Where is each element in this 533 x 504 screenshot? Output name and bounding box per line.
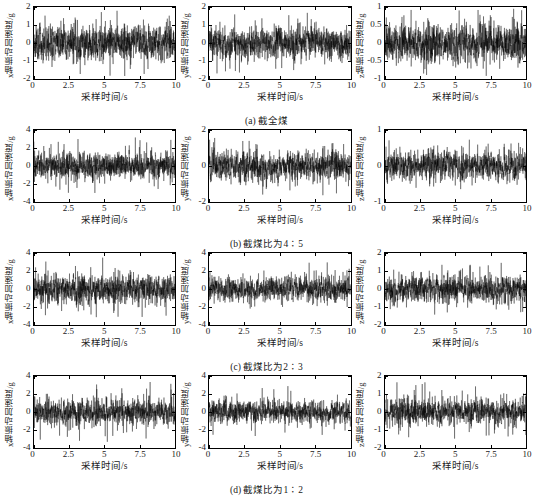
x-axis-label: 采样时间/s — [384, 93, 528, 103]
x-tick-label: 10 — [172, 81, 181, 90]
x-tick-label: 10 — [347, 327, 356, 336]
subplot-z-axis-row-2: z轴振动加速度/g10-102.557.510采样时间/s — [357, 127, 527, 227]
subplot-row-2: x轴振动加速度/g420-2-402.557.510采样时间/sy轴振动加速度/… — [2, 127, 531, 250]
x-tick-labels: 02.557.510 — [384, 449, 528, 461]
subplot-caption: (a) 截全煤 — [2, 117, 531, 127]
x-tick-label: 5 — [278, 204, 283, 213]
y-tick-label: 1 — [377, 125, 382, 134]
y-tick-label: 1 — [202, 20, 207, 29]
x-tick-label: 0 — [381, 204, 386, 213]
y-tick-label: 1 — [377, 389, 382, 398]
y-tick-label: 0 — [377, 161, 382, 170]
plot-column: 02.557.510采样时间/s — [208, 4, 352, 103]
x-tick-label: 10 — [347, 204, 356, 213]
subplot-x-axis-row-3: x轴振动加速度/g420-2-402.557.510采样时间/s — [6, 250, 176, 350]
y-tick-label: 0 — [202, 407, 207, 416]
vibration-figure: x轴振动加速度/g210-1-202.557.510采样时间/sy轴振动加速度/… — [0, 0, 533, 504]
plot-area — [208, 6, 352, 80]
plot-area — [384, 252, 528, 326]
x-tick-label: 5 — [102, 450, 107, 459]
plot-area — [208, 129, 352, 203]
x-axis-label: 采样时间/s — [33, 216, 177, 226]
x-tick-labels: 02.557.510 — [33, 449, 177, 461]
y-tick-label: 1 — [377, 2, 382, 11]
plot-area — [384, 375, 528, 449]
y-tick-labels: 420-2-4 — [16, 375, 33, 447]
y-tick-label: 2 — [202, 389, 207, 398]
plot-area — [33, 6, 177, 80]
x-axis-label: 采样时间/s — [208, 339, 352, 349]
y-tick-label: 0 — [377, 284, 382, 293]
y-axis-label: z轴振动加速度/g — [357, 125, 366, 213]
x-tick-label: 10 — [523, 81, 532, 90]
x-tick-label: 2.5 — [238, 450, 249, 459]
x-tick-label: 2.5 — [63, 450, 74, 459]
y-axis-label: y轴振动加速度/g — [182, 2, 191, 90]
x-tick-label: 2.5 — [414, 327, 425, 336]
x-tick-label: 5 — [278, 81, 283, 90]
plot-column: 02.557.510采样时间/s — [208, 127, 352, 226]
x-tick-label: 7.5 — [135, 81, 146, 90]
y-tick-label: 1 — [377, 266, 382, 275]
subplot-y-axis-row-4: y轴振动加速度/g420-2-402.557.510采样时间/s — [182, 373, 352, 473]
x-axis-label: 采样时间/s — [384, 339, 528, 349]
plot-area — [208, 252, 352, 326]
y-tick-labels: 10.50-0.5-1 — [367, 6, 384, 78]
y-axis-label: x轴振动加速度/g — [6, 2, 15, 90]
x-tick-label: 2.5 — [414, 450, 425, 459]
y-tick-labels: 420-2-4 — [191, 375, 208, 447]
x-axis-label: 采样时间/s — [33, 339, 177, 349]
x-tick-label: 7.5 — [135, 450, 146, 459]
x-axis-label: 采样时间/s — [384, 462, 528, 472]
y-axis-label: z轴振动加速度/g — [357, 2, 366, 90]
y-tick-label: 0 — [377, 407, 382, 416]
y-tick-label: 2 — [26, 2, 31, 11]
x-tick-label: 0 — [206, 81, 211, 90]
subplot-row-3: x轴振动加速度/g420-2-402.557.510采样时间/sy轴振动加速度/… — [2, 250, 531, 373]
x-axis-label: 采样时间/s — [33, 462, 177, 472]
x-tick-labels: 02.557.510 — [384, 80, 528, 92]
x-axis-label: 采样时间/s — [208, 462, 352, 472]
x-tick-labels: 02.557.510 — [384, 203, 528, 215]
y-axis-label: x轴振动加速度/g — [6, 125, 15, 213]
subplot-y-axis-row-1: y轴振动加速度/g210-1-202.557.510采样时间/s — [182, 4, 352, 104]
x-tick-label: 2.5 — [63, 327, 74, 336]
y-tick-labels: 20-2 — [191, 129, 208, 201]
x-tick-label: 10 — [172, 327, 181, 336]
x-tick-label: 7.5 — [310, 204, 321, 213]
plot-column: 02.557.510采样时间/s — [384, 250, 528, 349]
x-tick-label: 10 — [523, 450, 532, 459]
y-axis-label: x轴振动加速度/g — [6, 248, 15, 336]
y-tick-label: -2 — [23, 179, 31, 188]
plot-column: 02.557.510采样时间/s — [384, 127, 528, 226]
plot-column: 02.557.510采样时间/s — [33, 4, 177, 103]
x-tick-label: 7.5 — [486, 450, 497, 459]
x-tick-label: 7.5 — [486, 81, 497, 90]
x-tick-label: 2.5 — [414, 81, 425, 90]
y-tick-label: 2 — [26, 266, 31, 275]
x-tick-label: 0 — [30, 204, 35, 213]
subplot-x-axis-row-2: x轴振动加速度/g420-2-402.557.510采样时间/s — [6, 127, 176, 227]
y-tick-label: 4 — [26, 371, 31, 380]
plot-column: 02.557.510采样时间/s — [384, 4, 528, 103]
x-axis-label: 采样时间/s — [33, 93, 177, 103]
x-tick-label: 0 — [30, 450, 35, 459]
x-tick-label: 10 — [172, 450, 181, 459]
x-tick-label: 5 — [102, 204, 107, 213]
y-axis-label: y轴振动加速度/g — [182, 371, 191, 459]
x-tick-label: 5 — [278, 327, 283, 336]
plot-area — [384, 129, 528, 203]
plot-column: 02.557.510采样时间/s — [208, 373, 352, 472]
x-tick-label: 7.5 — [310, 450, 321, 459]
plot-column: 02.557.510采样时间/s — [33, 250, 177, 349]
y-tick-label: -1 — [374, 425, 382, 434]
plot-column: 02.557.510采样时间/s — [33, 373, 177, 472]
y-tick-label: -1 — [23, 56, 31, 65]
y-tick-label: 2 — [202, 125, 207, 134]
x-tick-label: 5 — [453, 81, 458, 90]
y-tick-label: -2 — [23, 425, 31, 434]
subplot-x-axis-row-1: x轴振动加速度/g210-1-202.557.510采样时间/s — [6, 4, 176, 104]
y-tick-label: 0 — [26, 161, 31, 170]
x-tick-labels: 02.557.510 — [208, 203, 352, 215]
x-tick-label: 0 — [30, 81, 35, 90]
